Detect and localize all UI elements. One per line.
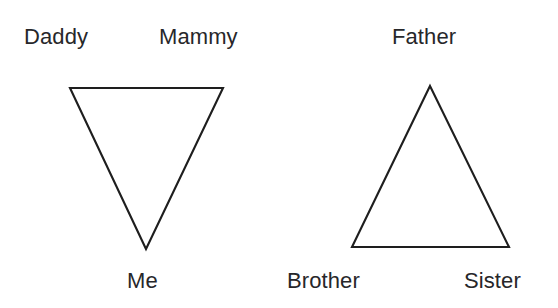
- label-me: Me: [127, 270, 158, 292]
- label-daddy: Daddy: [24, 26, 88, 48]
- inverted-triangle-shape: [70, 88, 223, 249]
- label-father: Father: [392, 26, 456, 48]
- label-brother: Brother: [287, 270, 360, 292]
- label-mammy: Mammy: [159, 26, 238, 48]
- family-triangles-figure: Daddy Mammy Me Father Brother Sister: [0, 0, 558, 308]
- label-sister: Sister: [464, 270, 521, 292]
- upright-triangle-shape: [352, 86, 509, 247]
